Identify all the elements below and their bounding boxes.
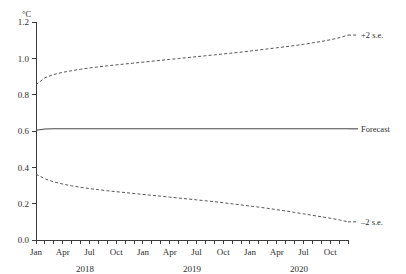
chart-container: 0.00.20.40.60.81.01.2 JanAprJulOctJanApr… [0,0,406,274]
x-axis-year-labels: 201820192020 [76,264,308,274]
x-year-label: 2020 [290,264,309,274]
x-tick-label: Jul [84,247,95,257]
x-tick-label: Apr [56,247,70,257]
x-tick-label: Apr [163,247,177,257]
series-annotations: +2 s.e.Forecast–2 s.e. [348,30,390,227]
y-tick-label: 0.4 [18,163,30,173]
x-axis-tick-labels: JanAprJulOctJanAprJulOctJanAprJulOct [30,247,337,257]
x-tick-label: Jan [244,247,256,257]
x-tick-label: Jul [298,247,309,257]
series-annotation-label: Forecast [361,124,390,134]
x-year-label: 2018 [76,264,95,274]
y-tick-label: 0.8 [18,90,30,100]
x-tick-label: Jan [137,247,149,257]
series-annotation-label: –2 s.e. [360,217,383,227]
chart-axes [36,22,348,240]
chart-series [36,35,348,222]
y-tick-label: 1.0 [18,54,30,64]
forecast-fan-chart: 0.00.20.40.60.81.01.2 JanAprJulOctJanApr… [0,0,406,274]
series-line [36,129,348,130]
series-line [36,174,348,222]
y-axis-ticks [32,22,36,240]
y-axis-tick-labels: 0.00.20.40.60.81.01.2 [18,17,30,245]
series-line [36,35,348,85]
x-tick-label: Oct [217,247,230,257]
x-tick-label: Apr [270,247,284,257]
x-tick-label: Jul [191,247,202,257]
y-tick-label: 0.0 [18,235,30,245]
y-axis-unit-label: °C [22,9,31,19]
y-tick-label: 0.2 [18,199,29,209]
x-tick-label: Oct [110,247,123,257]
series-annotation-label: +2 s.e. [361,30,384,40]
x-tick-label: Jan [30,247,42,257]
x-tick-label: Oct [324,247,337,257]
x-year-label: 2019 [183,264,202,274]
y-tick-label: 0.6 [18,126,30,136]
x-axis-ticks [36,240,348,244]
